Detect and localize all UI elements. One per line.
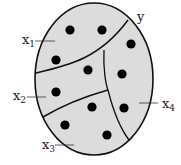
- label-y: y: [136, 9, 145, 24]
- label-x1: x1: [22, 32, 35, 49]
- element-dot: [119, 103, 128, 112]
- element-dot: [97, 25, 106, 34]
- element-dot: [117, 69, 126, 78]
- partition-diagram: y x1 x2 x3 x4: [0, 0, 181, 165]
- element-dot: [60, 120, 69, 129]
- element-dot: [65, 25, 74, 34]
- label-x4: x4: [162, 96, 175, 113]
- element-dot: [87, 102, 96, 111]
- element-dot: [126, 39, 135, 48]
- element-dot: [51, 87, 60, 96]
- element-dot: [83, 65, 92, 74]
- label-x3: x3: [42, 137, 55, 154]
- label-x2: x2: [13, 88, 26, 105]
- element-dot: [102, 130, 111, 139]
- element-dot: [51, 55, 60, 64]
- set-ellipse: [35, 3, 153, 155]
